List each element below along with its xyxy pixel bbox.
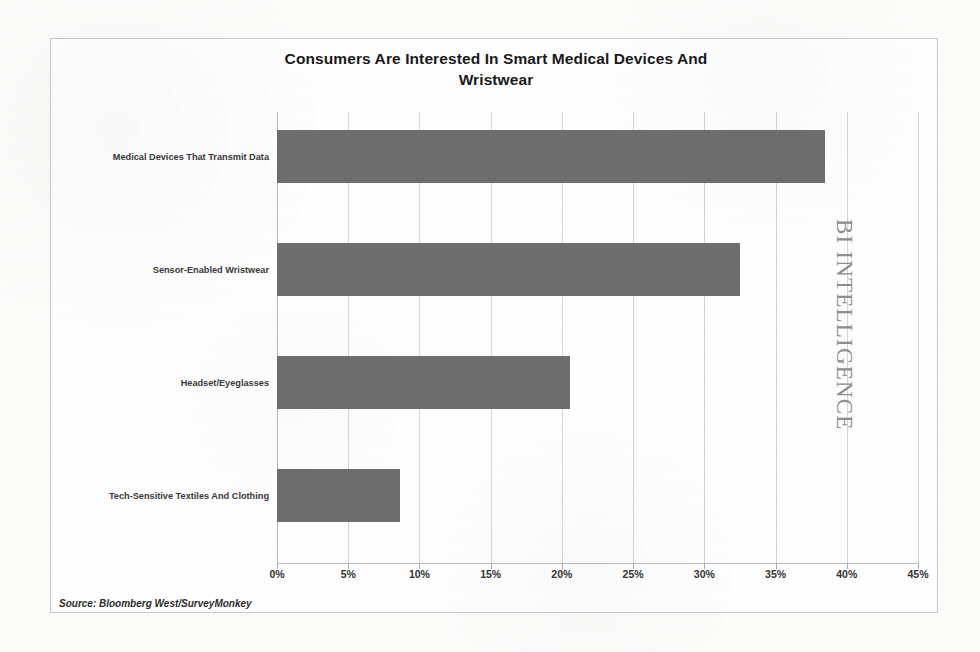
x-axis-tick-labels: 0%5%10%15%20%25%30%35%40%45% bbox=[277, 568, 918, 588]
bar bbox=[277, 469, 400, 522]
chart-title-line-1: Consumers Are Interested In Smart Medica… bbox=[285, 50, 708, 67]
chart-title: Consumers Are Interested In Smart Medica… bbox=[131, 49, 861, 90]
x-axis-line bbox=[277, 563, 918, 564]
x-axis-tick-label: 15% bbox=[480, 568, 501, 580]
source-note: Source: Bloomberg West/SurveyMonkey bbox=[59, 598, 252, 609]
x-axis-tick-label: 45% bbox=[907, 568, 928, 580]
bar bbox=[277, 130, 825, 183]
x-axis-tick-label: 5% bbox=[341, 568, 356, 580]
y-axis-category-label: Tech-Sensitive Textiles And Clothing bbox=[51, 491, 269, 501]
y-axis-category-label: Headset/Eyeglasses bbox=[51, 378, 269, 388]
y-axis-category-label: Sensor-Enabled Wristwear bbox=[51, 265, 269, 275]
bi-intelligence-watermark: BI INTELLIGENCE bbox=[831, 219, 857, 431]
plot-area bbox=[277, 112, 918, 564]
chart-container: Consumers Are Interested In Smart Medica… bbox=[50, 38, 938, 613]
x-axis-tick-label: 0% bbox=[269, 568, 284, 580]
y-axis-category-labels: Medical Devices That Transmit DataSensor… bbox=[51, 112, 269, 564]
x-axis-tick-label: 40% bbox=[836, 568, 857, 580]
bar bbox=[277, 243, 740, 296]
x-axis-tick-label: 35% bbox=[765, 568, 786, 580]
chart-title-line-2: Wristwear bbox=[459, 71, 534, 88]
y-axis-category-label: Medical Devices That Transmit Data bbox=[51, 152, 269, 162]
bar bbox=[277, 356, 570, 409]
x-axis-tick-label: 20% bbox=[551, 568, 572, 580]
x-axis-tick-label: 10% bbox=[409, 568, 430, 580]
x-axis-tick-label: 25% bbox=[623, 568, 644, 580]
bar-series bbox=[277, 112, 918, 564]
x-axis-tick-label: 30% bbox=[694, 568, 715, 580]
gridline bbox=[918, 112, 919, 564]
